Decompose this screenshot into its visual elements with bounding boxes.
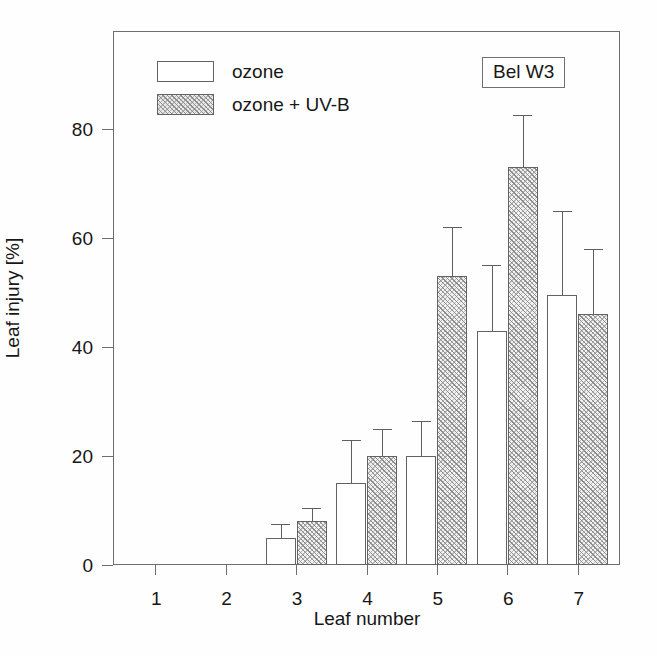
y-axis-tick-label: 60 bbox=[72, 228, 93, 250]
legend-swatch bbox=[157, 94, 214, 115]
x-axis-tick-label: 2 bbox=[221, 588, 232, 610]
bar bbox=[406, 456, 436, 565]
error-bar-line bbox=[281, 524, 282, 538]
x-axis-tick: 7 bbox=[578, 565, 579, 575]
x-axis-title: Leaf number bbox=[314, 608, 421, 630]
error-bar-cap bbox=[342, 440, 361, 441]
x-axis-tick-label: 5 bbox=[433, 588, 444, 610]
error-bar-line bbox=[351, 440, 352, 484]
bar bbox=[266, 538, 296, 565]
error-bar-cap bbox=[373, 429, 392, 430]
legend-item: ozone bbox=[157, 55, 350, 88]
error-bar-line bbox=[562, 211, 563, 295]
error-bar-cap bbox=[513, 115, 532, 116]
error-bar-line bbox=[492, 265, 493, 330]
x-axis-tick: 5 bbox=[437, 565, 438, 575]
y-axis-title: Leaf injury [%] bbox=[2, 238, 24, 358]
bar bbox=[297, 521, 327, 565]
bar bbox=[508, 167, 538, 565]
bar bbox=[336, 483, 366, 565]
legend-label: ozone bbox=[232, 61, 284, 83]
x-axis-tick-label: 6 bbox=[503, 588, 514, 610]
y-axis-tick: 40 bbox=[102, 347, 113, 348]
y-axis-tick: 80 bbox=[102, 129, 113, 130]
x-axis-tick: 3 bbox=[296, 565, 297, 575]
error-bar-cap bbox=[553, 211, 572, 212]
error-bar-line bbox=[593, 249, 594, 314]
error-bar-line bbox=[421, 421, 422, 456]
y-axis-tick-label: 40 bbox=[72, 337, 93, 359]
y-axis-tick: 20 bbox=[102, 456, 113, 457]
x-axis-tick: 2 bbox=[226, 565, 227, 575]
error-bar-line bbox=[312, 508, 313, 522]
legend-item: ozone + UV-B bbox=[157, 88, 350, 121]
y-axis-tick-label: 0 bbox=[82, 555, 93, 577]
x-axis-tick-label: 3 bbox=[292, 588, 303, 610]
legend-swatch bbox=[157, 61, 214, 82]
bar bbox=[367, 456, 397, 565]
legend: ozoneozone + UV-B bbox=[157, 55, 350, 121]
y-axis-tick: 60 bbox=[102, 238, 113, 239]
bar bbox=[437, 276, 467, 565]
error-bar-cap bbox=[271, 524, 290, 525]
error-bar-cap bbox=[584, 249, 603, 250]
error-bar-line bbox=[523, 115, 524, 167]
figure-bel-w3-leaf-injury: 020406080 1234567 Leaf injury [%] Leaf n… bbox=[0, 0, 657, 656]
legend-label: ozone + UV-B bbox=[232, 94, 350, 116]
x-axis-tick-label: 4 bbox=[362, 588, 373, 610]
bar bbox=[578, 314, 608, 565]
x-axis-tick: 6 bbox=[507, 565, 508, 575]
error-bar-line bbox=[382, 429, 383, 456]
error-bar-cap bbox=[482, 265, 501, 266]
x-axis-tick-label: 1 bbox=[151, 588, 162, 610]
y-axis-tick-label: 80 bbox=[72, 119, 93, 141]
y-axis-tick-label: 20 bbox=[72, 446, 93, 468]
annotation-bel-w3: Bel W3 bbox=[482, 57, 565, 88]
error-bar-cap bbox=[443, 227, 462, 228]
error-bar-line bbox=[452, 227, 453, 276]
x-axis-tick: 1 bbox=[155, 565, 156, 575]
error-bar-cap bbox=[412, 421, 431, 422]
x-axis-tick-label: 7 bbox=[573, 588, 584, 610]
error-bar-cap bbox=[302, 508, 321, 509]
bar bbox=[547, 295, 577, 565]
x-axis-tick: 4 bbox=[367, 565, 368, 575]
y-axis-tick: 0 bbox=[102, 565, 113, 566]
bar bbox=[477, 331, 507, 565]
